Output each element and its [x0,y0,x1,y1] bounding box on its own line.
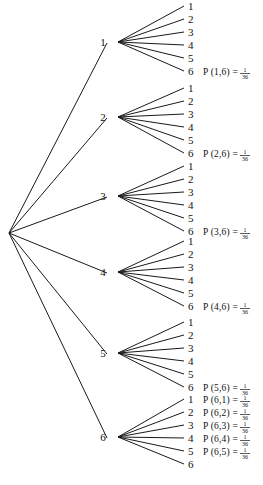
fraction-numerator: 1 [244,447,247,453]
level1-node-label-group: 123456 [100,36,106,443]
fraction-numerator: 1 [244,383,247,389]
probability-label-1-6: P (1,6) =136 [203,67,250,80]
leaf-branch-line-3-6 [118,196,184,231]
fraction-denominator: 36 [242,74,248,80]
leaf-label-5-3: 3 [188,342,194,354]
leaf-label-3-1: 1 [188,160,194,172]
fraction-numerator: 1 [244,421,247,427]
leaf-branch-line-1-6 [118,42,184,71]
root-branch-line-1 [9,43,107,233]
leaf-branch-line-3-2 [118,179,184,196]
leaf-branch-line-6-2 [118,412,184,437]
probability-label-6-5: P (6,5) =136 [203,447,250,460]
leaf-label-1-1: 1 [188,0,194,12]
probability-label-6-2: P (6,2) =136 [203,408,250,421]
leaf-label-6-2: 2 [188,406,194,418]
leaf-branch-line-4-5 [118,272,184,293]
fraction-denominator: 36 [242,454,248,460]
probability-label-6-1: P (6,1) =136 [203,395,250,408]
fraction-numerator: 1 [244,227,247,233]
leaf-label-4-2: 2 [188,248,194,260]
leaf-label-5-1: 1 [188,316,194,328]
leaf-label-2-1: 1 [188,82,194,94]
probability-expression: P (1,6) = [203,67,238,78]
leaf-label-6-5: 5 [188,445,194,457]
leaf-label-1-6: 6 [188,65,194,77]
leaf-label-group: 123456123456123456123456123456123456 [188,0,194,470]
probability-expression: P (6,2) = [203,408,238,419]
leaf-label-3-5: 5 [188,212,194,224]
probability-label-4-6: P (4,6) =136 [203,302,250,315]
root-branch-group [9,43,107,438]
level1-node-label-4: 4 [100,266,106,278]
probability-label-6-3: P (6,3) =136 [203,421,250,434]
leaf-branch-line-6-6 [118,437,184,464]
leaf-label-4-1: 1 [188,235,194,247]
leaf-label-5-4: 4 [188,355,194,367]
probability-label-group: P (1,6) =136P (2,6) =136P (3,6) =136P (4… [203,67,250,460]
leaf-branch-line-3-1 [118,166,184,196]
tree-diagram-canvas: 123456 123456123456123456123456123456123… [0,0,263,485]
probability-label-2-6: P (2,6) =136 [203,149,250,162]
probability-expression: P (5,6) = [203,383,238,394]
leaf-branch-line-4-6 [118,272,184,306]
leaf-label-1-3: 3 [188,26,194,38]
leaf-branch-line-5-4 [118,353,184,361]
leaf-branch-line-1-2 [118,19,184,42]
fraction-denominator: 36 [242,309,248,315]
leaf-branch-line-2-1 [118,88,184,117]
leaf-branch-line-3-5 [118,196,184,218]
leaf-branch-line-4-4 [118,272,184,280]
leaf-label-1-2: 2 [188,13,194,25]
probability-expression: P (6,1) = [203,395,238,406]
fraction-numerator: 1 [244,434,247,440]
fraction-denominator: 36 [242,156,248,162]
leaf-label-5-6: 6 [188,381,194,393]
leaf-branch-line-6-5 [118,437,184,451]
leaf-label-6-4: 4 [188,432,194,444]
leaf-label-2-3: 3 [188,108,194,120]
level1-node-label-6: 6 [100,431,106,443]
leaf-label-4-3: 3 [188,261,194,273]
root-branch-line-2 [9,118,107,233]
leaf-branch-line-3-4 [118,196,184,205]
leaf-label-6-6: 6 [188,458,194,470]
probability-expression: P (3,6) = [203,227,238,238]
leaf-label-2-2: 2 [188,95,194,107]
leaf-label-4-6: 6 [188,300,194,312]
leaf-label-6-1: 1 [188,393,194,405]
leaf-label-1-5: 5 [188,52,194,64]
probability-expression: P (4,6) = [203,302,238,313]
leaf-label-4-5: 5 [188,287,194,299]
probability-label-6-4: P (6,4) =136 [203,434,250,447]
leaf-branch-line-3-3 [118,192,184,196]
probability-expression: P (6,4) = [203,434,238,445]
leaf-label-5-5: 5 [188,368,194,380]
fraction-numerator: 1 [244,395,247,401]
probability-expression: P (6,5) = [203,447,238,458]
probability-label-3-6: P (3,6) =136 [203,227,250,240]
leaf-branch-line-5-5 [118,353,184,374]
leaf-label-1-4: 4 [188,39,194,51]
leaf-label-3-3: 3 [188,186,194,198]
leaf-label-2-5: 5 [188,134,194,146]
probability-tree-diagram: 123456 123456123456123456123456123456123… [0,0,263,485]
leaf-branch-line-6-4 [118,437,184,438]
probability-expression: P (2,6) = [203,149,238,160]
leaf-branch-line-2-5 [118,117,184,140]
leaf-label-4-4: 4 [188,274,194,286]
leaf-label-6-3: 3 [188,419,194,431]
leaf-label-2-6: 6 [188,147,194,159]
level1-node-label-2: 2 [100,111,106,123]
fraction-numerator: 1 [244,149,247,155]
level1-node-label-3: 3 [100,190,106,202]
fraction-numerator: 1 [244,408,247,414]
leaf-label-3-4: 4 [188,199,194,211]
leaf-branch-line-5-6 [118,353,184,387]
probability-expression: P (6,3) = [203,421,238,432]
level1-node-label-1: 1 [100,36,106,48]
leaf-branch-group [118,6,184,464]
level1-node-label-5: 5 [100,347,106,359]
leaf-label-5-2: 2 [188,329,194,341]
leaf-label-2-4: 4 [188,121,194,133]
